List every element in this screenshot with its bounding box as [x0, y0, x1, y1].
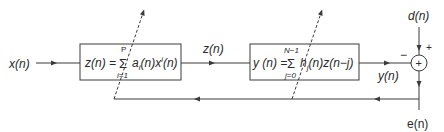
input-signal-label: x(n)	[8, 57, 30, 71]
desired-signal-label: d(n)	[408, 9, 429, 23]
summer-plus-sign: +	[426, 42, 432, 53]
adaptive-filter-block-diagram: x(n) z(n) = P Σ i=1 ai(n)xi(n) z(n) y (n…	[0, 0, 444, 132]
fir-block: y (n) = N−1 Σ j=0 hj(n)z(n−j)	[250, 44, 359, 80]
polynomial-sum-lower: i=1	[117, 71, 128, 80]
output-signal-label: y(n)	[377, 69, 399, 83]
error-arrowhead-icon	[417, 81, 422, 87]
intermediate-signal-label: z(n)	[202, 42, 224, 56]
fir-term: hj(n)z(n−j)	[300, 56, 353, 72]
error-signal-label: e(n)	[407, 117, 428, 131]
feedback-arrowhead-icon-right	[374, 97, 380, 102]
intermediate-arrowhead-icon	[209, 61, 215, 66]
feedback-arrowhead-icon-left	[194, 97, 200, 102]
summer-plus-icon: +	[416, 57, 422, 69]
sigma-icon: Σ	[287, 56, 295, 71]
summer-minus-sign: −	[400, 48, 407, 62]
summing-junction: +	[411, 55, 427, 71]
output-arrowhead-icon	[384, 61, 390, 66]
fir-sum-lower: j=0	[284, 71, 296, 80]
fir-sum-upper: N−1	[284, 46, 299, 55]
input-arrowhead-icon	[51, 61, 57, 66]
polynomial-lhs: z(n) =	[84, 56, 116, 70]
desired-arrowhead-icon	[417, 45, 422, 51]
polynomial-sum-upper: P	[121, 45, 126, 54]
fir-lhs: y (n) =	[252, 56, 287, 70]
